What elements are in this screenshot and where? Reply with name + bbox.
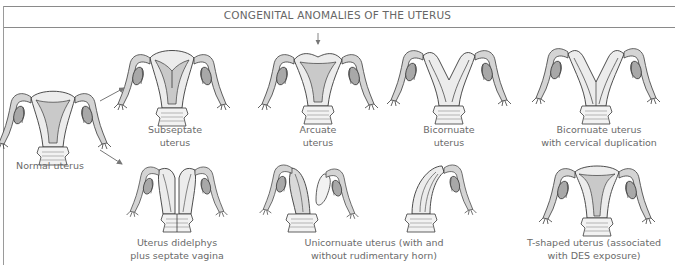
caption-line: Subseptate: [148, 123, 202, 136]
caption-line: uterus: [300, 136, 337, 149]
figure-unicornuate-without-horn: [405, 165, 476, 232]
figure-bicornuate-uterus: [387, 51, 511, 124]
caption-line: Normal uterus: [16, 159, 84, 172]
caption-line: with cervical duplication: [541, 136, 657, 149]
caption-line: without rudimentary horn): [304, 249, 443, 262]
caption-line: uterus: [148, 136, 202, 149]
caption-line: plus septate vagina: [130, 249, 224, 262]
caption-normal-uterus: Normal uterus: [16, 159, 84, 172]
figure-t-shaped-uterus: [539, 166, 655, 236]
caption-line: Bicornuate uterus: [541, 123, 657, 136]
arrow-normal-to-didelphys: [100, 150, 122, 164]
caption-line: Uterus didelphys: [130, 236, 224, 249]
figure-normal-uterus: [0, 91, 111, 165]
caption-line: T-shaped uterus (associated: [527, 236, 661, 249]
figure-unicornuate-with-horn: [260, 165, 359, 232]
figure-uterus-didelphys: [127, 167, 228, 232]
caption-didelphys: Uterus didelphys plus septate vagina: [130, 236, 224, 262]
caption-arcuate: Arcuate uterus: [300, 123, 337, 149]
caption-line: Bicornuate: [423, 123, 474, 136]
caption-bicornuate: Bicornuate uterus: [423, 123, 474, 149]
caption-bicornuate-cervical: Bicornuate uterus with cervical duplicat…: [541, 123, 657, 149]
figure-arcuate-uterus: [258, 54, 378, 124]
figure-bicornuate-cervical-duplication: [532, 49, 660, 124]
caption-line: Arcuate: [300, 123, 337, 136]
figure-subseptate-uterus: [114, 51, 230, 127]
caption-subseptate: Subseptate uterus: [148, 123, 202, 149]
caption-t-shaped: T-shaped uterus (associated with DES exp…: [527, 236, 661, 262]
caption-unicornuate: Unicornuate uterus (with and without rud…: [304, 236, 443, 262]
caption-line: uterus: [423, 136, 474, 149]
caption-line: Unicornuate uterus (with and: [304, 236, 443, 249]
caption-line: with DES exposure): [527, 249, 661, 262]
